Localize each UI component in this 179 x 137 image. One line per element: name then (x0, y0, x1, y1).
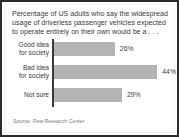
bar-good-idea (54, 42, 115, 56)
chart-inner-frame: Percentage of US adults who say the wide… (4, 4, 175, 133)
chart-source-note: Source: Pew Research Center (13, 118, 85, 124)
chart-title-line-3: to operate entirely on their own would b… (12, 28, 172, 37)
chart-title: Percentage of US adults who say the wide… (12, 10, 172, 38)
bar-category-label-not-sure: Not sure (0, 91, 49, 99)
chart-title-line-1: Percentage of US adults who say the wide… (12, 10, 172, 19)
chart-figure: Percentage of US adults who say the wide… (0, 0, 179, 137)
bar-value-label-good-idea: 26% (120, 45, 134, 52)
chart-title-line-2: usage of driverless passenger vehicles e… (12, 19, 172, 28)
bar-category-label-line-2: for society (0, 72, 49, 80)
bar-category-label-good-idea: Good idea for society (0, 41, 49, 57)
bar-category-label-line-1: Not sure (0, 91, 49, 99)
bar-track-bad-idea (54, 65, 158, 79)
bar-category-label-line-1: Bad idea (0, 64, 49, 72)
bar-row-good-idea: Good idea for society 26% (5, 39, 179, 61)
bar-category-label-line-2: for society (0, 49, 49, 57)
bar-not-sure (54, 88, 122, 102)
bar-category-label-line-1: Good idea (0, 41, 49, 49)
bar-track-not-sure (54, 88, 122, 102)
bar-bad-idea (54, 65, 158, 79)
bar-category-label-bad-idea: Bad idea for society (0, 64, 49, 80)
bar-row-bad-idea: Bad idea for society 44% (5, 62, 179, 84)
chart-plot-area: Good idea for society 26% Bad idea for s… (5, 39, 179, 107)
bar-row-not-sure: Not sure 29% (5, 85, 179, 107)
bar-track-good-idea (54, 42, 115, 56)
bar-value-label-bad-idea: 44% (162, 68, 176, 75)
bar-value-label-not-sure: 29% (127, 91, 141, 98)
